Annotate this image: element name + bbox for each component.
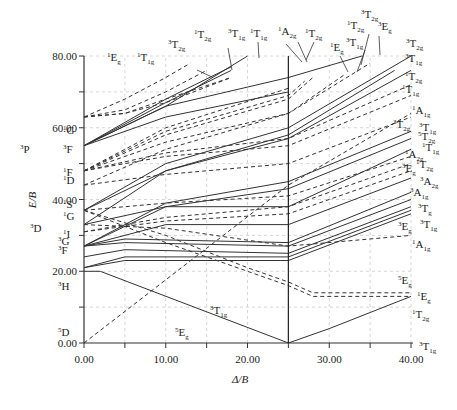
tanabe-sugano-chart: 0.0010.0020.0030.0040.000.0020.0040.0060…: [0, 0, 457, 410]
y-tick-label: 0.00: [58, 337, 78, 349]
leader-line: [379, 36, 380, 55]
series-line: [84, 78, 231, 118]
x-tick-label: 10.00: [153, 353, 178, 365]
leader-line: [306, 42, 314, 60]
left-term-label: 3P: [20, 143, 30, 155]
right-term-label: 3T1g: [420, 218, 438, 233]
left-term-label: 3F: [63, 143, 73, 155]
top-term-label: 3T2g: [168, 38, 186, 53]
right-term-label: 1A1g: [412, 238, 431, 253]
inline-term-label: 5Eg: [175, 326, 189, 341]
right-term-label: 3Tg: [418, 202, 432, 217]
right-term-label: 5Eg: [398, 274, 412, 289]
left-term-label: 3D: [30, 222, 42, 234]
series-line: [84, 81, 305, 171]
leader-line: [197, 70, 212, 77]
right-term-label: 3A2g: [420, 175, 439, 190]
x-axis-title: Δ/B: [231, 373, 249, 385]
top-term-label: 1T2g: [194, 28, 212, 43]
right-term-label: 3T1g: [405, 52, 423, 67]
right-term-label: 3T2g: [406, 37, 424, 52]
y-axis-title: E/B: [26, 191, 38, 209]
top-term-label: 1A2g: [278, 25, 297, 40]
series-line: [84, 63, 190, 117]
top-term-label: 3T1g: [346, 36, 364, 51]
right-term-label: 1T2g: [412, 308, 430, 323]
chart-canvas: 0.0010.0020.0030.0040.000.0020.0040.0060…: [0, 0, 457, 410]
leader-line: [340, 56, 348, 72]
x-tick-label: 30.00: [317, 353, 342, 365]
right-term-label: 1T2g: [416, 158, 434, 173]
left-term-label: 1G: [63, 210, 75, 222]
right-term-label: 1Eg: [417, 290, 431, 305]
top-term-label: 3T1g: [228, 27, 246, 42]
left-term-label: 1G: [63, 124, 75, 136]
left-term-label: 1S: [63, 198, 73, 210]
grid: [84, 56, 411, 343]
top-term-label: 3T2g: [361, 8, 379, 23]
x-tick-label: 0.00: [74, 353, 94, 365]
left-term-label: 3H: [58, 280, 70, 292]
top-term-label: 1Eg: [107, 51, 121, 66]
top-term-label: 1T2g: [347, 19, 365, 34]
top-term-label: 1Eg: [330, 41, 344, 56]
top-term-label: 1T1g: [137, 51, 155, 66]
right-term-label: 3Eg: [402, 162, 416, 177]
top-term-label: 1T1g: [250, 27, 268, 42]
right-term-label: 3A1g: [410, 186, 429, 201]
y-tick-label: 80.00: [52, 50, 77, 62]
y-tick-label: 20.00: [52, 265, 77, 277]
right-term-label: 3T2g: [393, 118, 411, 133]
series-line: [84, 78, 231, 118]
right-term-label: 3Eg: [398, 220, 412, 235]
right-term-label: 1T1g: [422, 141, 440, 156]
top-term-label: 1T2g: [305, 27, 323, 42]
series-line: [84, 70, 411, 210]
x-tick-label: 20.00: [235, 353, 260, 365]
right-term-label: 1A1g: [412, 104, 431, 119]
top-term-label: 3Eg: [378, 20, 392, 35]
x-tick-label: 40.00: [399, 353, 424, 365]
series-line: [84, 74, 346, 185]
